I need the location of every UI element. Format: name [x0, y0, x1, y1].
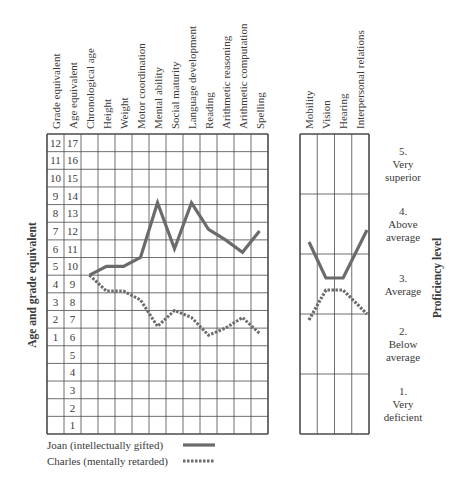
age-tick: 5 [70, 349, 76, 361]
age-tick: 2 [70, 402, 76, 414]
age-tick: 14 [67, 190, 79, 202]
grade-tick: 10 [50, 172, 62, 184]
level-label: 3. [399, 272, 408, 284]
proficiency-level-labels: 5.Verysuperior4.Aboveaverage3.Average2.B… [384, 145, 422, 423]
age-tick: 8 [70, 296, 76, 308]
age-tick: 9 [70, 278, 76, 290]
level-label: Above [388, 218, 417, 230]
grade-tick: 12 [50, 137, 61, 149]
column-header: Language development [186, 26, 198, 129]
level-label: Very [393, 158, 414, 170]
age-tick: 4 [70, 366, 76, 378]
column-header: Vision [320, 100, 332, 129]
proficiency-axis-title: Proficiency level [431, 238, 444, 319]
y-axis-title: Age and grade equivalent [26, 222, 39, 348]
legend-label: Joan (intellectually gifted) [47, 439, 163, 452]
grade-tick: 1 [53, 331, 59, 343]
age-tick: 6 [70, 331, 76, 343]
grade-tick: 7 [53, 225, 59, 237]
left-column-headers: Grade equivalentAge equivalentChronologi… [50, 23, 266, 129]
column-header: Spelling [254, 92, 266, 129]
age-tick: 16 [67, 154, 79, 166]
age-tick: 11 [67, 243, 78, 255]
column-header: Chronological age [84, 48, 96, 129]
column-header: Grade equivalent [50, 54, 62, 129]
column-header: Mental ability [152, 66, 164, 129]
development-profile-chart: Grade equivalentAge equivalentChronologi… [0, 0, 469, 493]
right-series-lines [309, 230, 367, 320]
grade-tick: 5 [53, 260, 59, 272]
age-tick: 1 [70, 419, 76, 431]
level-label: Below [389, 338, 418, 350]
grade-tick: 4 [53, 278, 59, 290]
level-label: Average [385, 285, 422, 297]
column-header: Height [101, 99, 113, 129]
level-label: 4. [399, 205, 408, 217]
column-header: Hearing [337, 93, 349, 129]
column-header: Age equivalent [67, 62, 79, 129]
level-label: superior [385, 171, 421, 183]
age-tick: 13 [67, 207, 79, 219]
level-label: average [386, 231, 420, 243]
column-header: Weight [118, 98, 130, 130]
age-tick: 15 [67, 172, 79, 184]
column-header: Arithmetic computation [237, 23, 249, 129]
grade-tick: 11 [50, 154, 61, 166]
column-header: Mobility [303, 90, 315, 129]
level-label: 5. [399, 145, 408, 157]
legend-label: Charles (mentally retarded) [47, 455, 168, 468]
column-header: Reading [203, 92, 215, 129]
column-header: Social maturity [169, 61, 181, 129]
age-tick: 3 [70, 384, 76, 396]
age-tick: 10 [67, 260, 79, 272]
level-label: average [386, 351, 420, 363]
age-tick: 7 [70, 313, 76, 325]
level-label: deficient [384, 411, 422, 423]
age-tick: 17 [67, 137, 79, 149]
charles-line [309, 290, 367, 320]
grade-tick: 3 [53, 296, 59, 308]
age-tick: 12 [67, 225, 78, 237]
grade-tick: 8 [53, 207, 59, 219]
column-header: Motor coordination [135, 43, 147, 129]
column-header: Interpersonal relations [354, 30, 366, 129]
column-header: Arithmetic reasoning [220, 35, 232, 129]
right-grid [300, 134, 369, 434]
grade-tick: 2 [53, 313, 59, 325]
level-label: 2. [399, 325, 408, 337]
grade-tick: 9 [53, 190, 59, 202]
legend: Joan (intellectually gifted)Charles (men… [47, 439, 215, 468]
level-label: 1. [399, 385, 408, 397]
level-label: Very [393, 398, 414, 410]
grade-tick: 6 [53, 243, 59, 255]
left-grid [47, 134, 268, 434]
right-column-headers: MobilityVisionHearingInterpersonal relat… [303, 30, 367, 129]
